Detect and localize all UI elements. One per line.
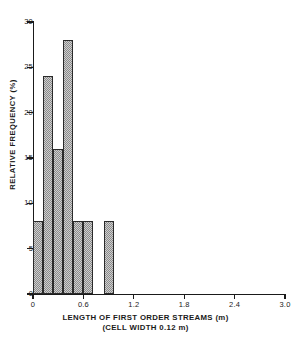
histogram-bar xyxy=(63,40,73,294)
x-axis-tick-mark xyxy=(184,294,185,299)
x-axis-tick-label: 1.8 xyxy=(169,300,199,309)
y-axis-tick-label: 15 xyxy=(11,154,33,162)
x-axis-tick-mark xyxy=(32,294,33,299)
x-axis-tick-mark xyxy=(234,294,235,299)
y-axis-tick-label-wrap: 25 xyxy=(0,63,33,71)
plot-area xyxy=(33,22,285,294)
x-axis-tick-label: 0 xyxy=(18,300,48,309)
histogram-figure: RELATIVE FREQUENCY (%) 051015202530 00.6… xyxy=(0,0,291,337)
y-axis-tick-label: 20 xyxy=(11,109,33,117)
x-axis-tick-label: 2.4 xyxy=(220,300,250,309)
y-axis-tick-label-wrap: 5 xyxy=(0,245,33,253)
y-axis-title: RELATIVE FREQUENCY (%) xyxy=(8,60,17,210)
y-axis-tick-label: 0 xyxy=(11,290,33,298)
histogram-bar xyxy=(104,221,114,294)
y-axis-tick-label: 30 xyxy=(11,18,33,26)
y-axis-tick-label-wrap: 30 xyxy=(0,18,33,26)
y-axis-tick-label-wrap: 20 xyxy=(0,109,33,117)
y-axis-tick-label: 5 xyxy=(11,245,33,253)
x-axis-subtitle-cell-width: (CELL WIDTH 0.12 m) xyxy=(0,323,291,332)
x-axis-tick-label: 0.6 xyxy=(68,300,98,309)
x-axis-title: LENGTH OF FIRST ORDER STREAMS (m) xyxy=(0,313,291,322)
x-axis-tick-mark xyxy=(284,294,285,299)
histogram-bar xyxy=(33,221,43,294)
x-axis-tick-mark xyxy=(83,294,84,299)
histogram-bar xyxy=(83,221,93,294)
y-axis-tick-label-wrap: 15 xyxy=(0,154,33,162)
y-axis-tick-label: 10 xyxy=(11,199,33,207)
x-axis-tick-mark xyxy=(133,294,134,299)
x-axis-tick-label: 3.0 xyxy=(270,300,291,309)
y-axis-tick-label-wrap: 10 xyxy=(0,199,33,207)
histogram-bar xyxy=(43,76,53,294)
y-axis-tick-label-wrap: 0 xyxy=(0,290,33,298)
histogram-bar xyxy=(73,221,83,294)
histogram-bar xyxy=(53,149,63,294)
x-axis-tick-label: 1.2 xyxy=(119,300,149,309)
y-axis-tick-label: 25 xyxy=(11,63,33,71)
